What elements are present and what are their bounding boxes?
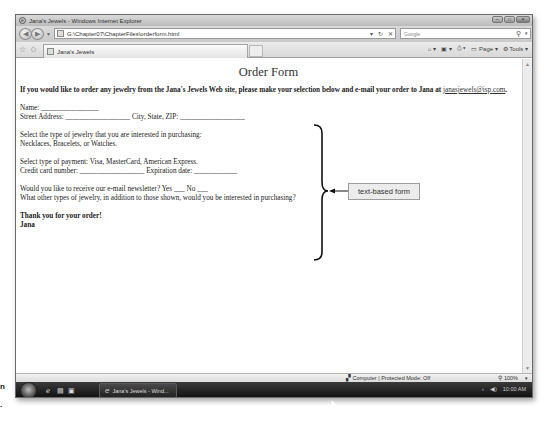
newsletter-line: Would you like to receive our e-mail new… [20, 185, 517, 194]
system-tray: ‹ ◀) 10:00 AM [482, 386, 526, 392]
intro-text: If you would like to order any jewelry f… [20, 86, 441, 94]
feeds-icon[interactable]: ▣ ▾ [441, 45, 452, 52]
other-types-line: What other types of jewelry, in addition… [20, 194, 517, 203]
page-menu-label: Page [479, 46, 493, 52]
tab-label: Jana's Jewels [57, 49, 94, 55]
home-icon[interactable]: ⌂ ▾ [428, 45, 436, 52]
ie-logo-icon: e [19, 17, 26, 24]
scroll-up-icon[interactable]: ▲ [525, 61, 530, 67]
ie-icon: e [105, 386, 109, 395]
order-form-page: Order Form If you would like to order an… [20, 63, 517, 230]
address-bar[interactable]: G:\Chapter07\ChapterFiles\orderform.html… [54, 28, 396, 39]
url-text: G:\Chapter07\ChapterFiles\orderform.html [67, 31, 179, 37]
vertical-scrollbar[interactable]: ▲ ▼ [522, 59, 532, 373]
quicklaunch-ie-icon[interactable]: ℯ [46, 387, 50, 395]
recent-pages-dropdown[interactable]: ▼ [46, 31, 51, 37]
address-tools: ▾ ↻ ✕ [370, 29, 393, 38]
quicklaunch-switch-icon[interactable]: ▣ [68, 387, 75, 395]
mouse-cursor-icon [329, 399, 337, 408]
search-input[interactable]: Google [404, 31, 420, 37]
start-button[interactable] [20, 382, 37, 398]
maximize-button[interactable]: □ [504, 16, 515, 23]
page-viewport: Order Form If you would like to order an… [16, 59, 523, 373]
quicklaunch-desktop-icon[interactable]: ▤ [57, 387, 64, 395]
edge-text-bottom: . [0, 400, 2, 409]
callout-label: text-based form [348, 183, 420, 200]
forward-button[interactable]: ▶ [31, 28, 44, 40]
refresh-icon[interactable]: ↻ [378, 30, 383, 37]
address-dropdown-icon[interactable]: ▾ [370, 30, 373, 37]
print-icon[interactable]: ⎙ ▾ [457, 45, 467, 52]
navigation-bar: ◀ ▶ ▼ G:\Chapter07\ChapterFiles\orderfor… [16, 26, 532, 42]
search-box[interactable]: Google ⚲ ▾ [400, 28, 531, 39]
status-bar: ▞ Computer | Protected Mode: Off ⚲ 100% … [16, 373, 532, 382]
title-bar[interactable]: e Jana's Jewels - Windows Internet Explo… [16, 15, 532, 26]
page-icon [47, 48, 54, 55]
tray-expand-icon[interactable]: ‹ [482, 386, 484, 392]
window-controls: – □ × [492, 16, 530, 23]
page-title: Order Form [20, 65, 517, 80]
edge-text-top: n [0, 382, 5, 391]
email-suffix: . [505, 86, 507, 94]
email-link[interactable]: janasjewels@isp.com [443, 86, 505, 94]
security-zone[interactable]: ▞ Computer | Protected Mode: Off [346, 374, 430, 382]
taskbar: ℯ ▤ ▣ e Jana's Jewels - Wind... ‹ ◀) 10:… [16, 382, 532, 398]
clock[interactable]: 10:00 AM [503, 386, 526, 392]
browser-window: e Jana's Jewels - Windows Internet Explo… [15, 14, 533, 398]
tab-bar: ☆ ✩ Jana's Jewels ⌂ ▾ ▣ ▾ ⎙ ▾ ▭ Page ▾ ⚙… [16, 42, 532, 58]
signature-line: Jana [20, 221, 517, 230]
favorites-star-icon[interactable]: ☆ [19, 45, 26, 54]
intro-paragraph: If you would like to order any jewelry f… [20, 86, 517, 96]
zoom-dropdown-icon[interactable]: ▾ [525, 374, 528, 382]
scroll-down-icon[interactable]: ▼ [525, 365, 530, 371]
search-icon[interactable]: ⚲ [516, 29, 521, 38]
tools-menu[interactable]: ⚙ Tools ▾ [503, 45, 528, 52]
select-type-line: Select the type of jewelry that you are … [20, 131, 517, 140]
window-title: Jana's Jewels - Windows Internet Explore… [29, 18, 142, 24]
tab-janas-jewels[interactable]: Jana's Jewels [43, 44, 248, 58]
minimize-button[interactable]: – [492, 16, 503, 23]
credit-card-line: Credit card number: __________________ E… [20, 167, 517, 176]
close-button[interactable]: × [516, 16, 530, 23]
tools-menu-label: Tools [509, 46, 523, 52]
zoom-text: 100% [504, 375, 518, 381]
name-line: Name: ________________ [20, 104, 517, 113]
thanks-line: Thank you for your order! [20, 212, 517, 221]
taskbar-button-ie[interactable]: e Jana's Jewels - Wind... [99, 383, 177, 398]
search-dropdown-icon[interactable]: ▾ [525, 29, 528, 38]
zone-text: Computer | Protected Mode: Off [353, 375, 431, 381]
address-line: Street Address: __________________ City,… [20, 113, 517, 122]
add-favorites-icon[interactable]: ✩ [30, 45, 37, 54]
page-menu[interactable]: ▭ Page ▾ [471, 45, 497, 52]
page-icon [57, 30, 64, 37]
stop-icon[interactable]: ✕ [388, 30, 393, 37]
taskbar-button-label: Jana's Jewels - Wind... [112, 388, 168, 394]
jewelry-types-line: Necklaces, Bracelets, or Watches. [20, 140, 517, 149]
command-bar: ⌂ ▾ ▣ ▾ ⎙ ▾ ▭ Page ▾ ⚙ Tools ▾ [428, 45, 528, 52]
payment-line: Select type of payment: Visa, MasterCard… [20, 158, 517, 167]
zoom-level[interactable]: ⚲ 100% [498, 374, 518, 382]
volume-icon[interactable]: ◀) [490, 386, 497, 392]
new-tab-button[interactable] [249, 45, 263, 57]
